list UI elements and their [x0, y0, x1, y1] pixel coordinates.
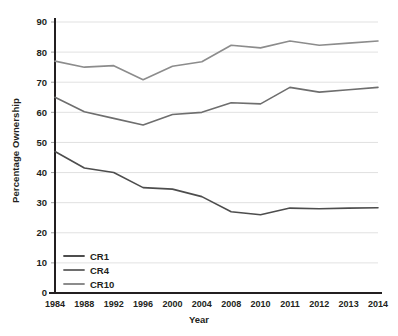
y-tick-label: 30	[36, 197, 47, 208]
line-chart: Percentage Ownership 0102030405060708090…	[0, 0, 398, 336]
series-line-cr10	[55, 41, 378, 80]
plot-area: 0102030405060708090198419881992199620002…	[0, 0, 398, 336]
y-tick-label: 10	[36, 257, 47, 268]
y-tick-label: 60	[36, 107, 47, 118]
y-tick-label: 50	[36, 137, 47, 148]
x-tick-label: 2010	[251, 299, 271, 309]
y-axis-label-container: Percentage Ownership	[6, 0, 24, 300]
series-line-cr4	[55, 87, 378, 125]
y-tick-label: 70	[36, 77, 47, 88]
x-tick-label: 2004	[192, 299, 212, 309]
x-tick-label: 2012	[309, 299, 329, 309]
x-tick-label: 2011	[280, 299, 300, 309]
x-tick-label: 2008	[221, 299, 241, 309]
y-axis-label: Percentage Ownership	[10, 98, 21, 203]
legend-label-cr1: CR1	[90, 251, 110, 262]
series-line-cr1	[55, 151, 378, 214]
x-tick-label: 2013	[339, 299, 359, 309]
y-tick-label: 40	[36, 167, 47, 178]
x-tick-label: 1996	[133, 299, 153, 309]
x-tick-label: 1984	[45, 299, 65, 309]
x-axis-label: Year	[0, 314, 398, 325]
x-tick-label: 1988	[74, 299, 94, 309]
legend-label-cr4: CR4	[90, 265, 110, 276]
y-tick-label: 20	[36, 227, 47, 238]
x-tick-label: 2014	[368, 299, 388, 309]
x-tick-label: 2000	[162, 299, 182, 309]
y-tick-label: 90	[36, 16, 47, 27]
y-tick-label: 0	[42, 287, 47, 298]
legend-label-cr10: CR10	[90, 279, 114, 290]
x-tick-label: 1992	[104, 299, 124, 309]
y-tick-label: 80	[36, 47, 47, 58]
